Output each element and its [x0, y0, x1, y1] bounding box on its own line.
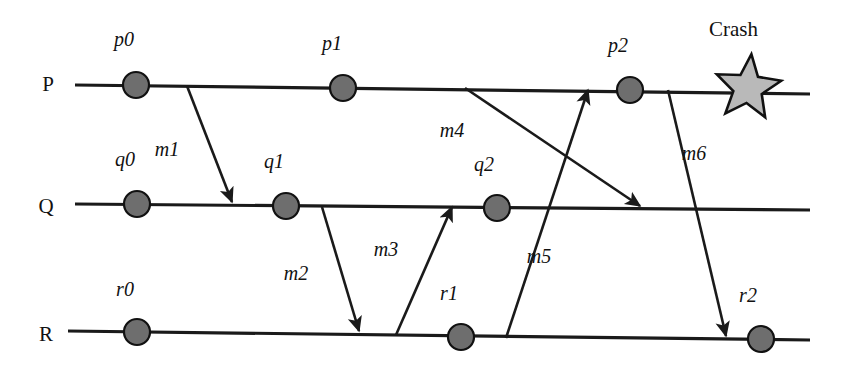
message-arrow-m2: [322, 207, 359, 331]
process-timeline-r: [68, 331, 810, 340]
event-label-q2: q2: [474, 153, 494, 176]
event-label-p1: p1: [320, 32, 342, 55]
event-label-r1: r1: [440, 282, 458, 304]
event-label-r0: r0: [116, 278, 134, 300]
event-dot-p0: [123, 72, 149, 98]
process-timeline-p: [75, 85, 810, 94]
labels-group: PQRm1m2m3m4m5m6p0p1p2q0q1q2r0r1r2Crash: [38, 17, 758, 346]
message-label-m1: m1: [155, 138, 179, 160]
event-label-r2: r2: [739, 284, 757, 306]
message-label-m5: m5: [527, 245, 551, 267]
message-arrow-m5: [506, 90, 588, 338]
event-dot-q2: [484, 195, 510, 221]
crash-star-icon: [717, 54, 781, 117]
message-label-m3: m3: [374, 238, 398, 260]
process-label-q: Q: [38, 194, 53, 218]
event-label-p0: p0: [112, 28, 134, 51]
process-timeline-q: [75, 204, 810, 210]
process-label-r: R: [39, 322, 53, 346]
event-label-p2: p2: [606, 34, 628, 57]
message-label-m6: m6: [682, 142, 706, 164]
message-arrow-m4: [465, 88, 640, 206]
crash-label: Crash: [709, 17, 758, 41]
event-label-q1: q1: [264, 150, 284, 173]
crash-marker-group: [717, 54, 781, 117]
spacetime-canvas: PQRm1m2m3m4m5m6p0p1p2q0q1q2r0r1r2Crash: [0, 0, 853, 370]
event-dot-q1: [273, 193, 299, 219]
message-label-m2: m2: [284, 262, 308, 284]
spacetime-diagram: PQRm1m2m3m4m5m6p0p1p2q0q1q2r0r1r2Crash: [0, 0, 853, 370]
message-arrow-m1: [187, 86, 232, 202]
event-label-q0: q0: [115, 148, 135, 171]
process-label-p: P: [42, 72, 54, 96]
event-dot-r2: [748, 326, 774, 352]
event-dot-r1: [448, 324, 474, 350]
event-dot-r0: [124, 319, 150, 345]
message-arrow-m3: [396, 207, 452, 335]
message-arrow-m6: [668, 90, 726, 336]
event-dot-p1: [330, 75, 356, 101]
message-label-m4: m4: [440, 119, 464, 141]
event-dot-q0: [124, 191, 150, 217]
event-dot-p2: [617, 77, 643, 103]
